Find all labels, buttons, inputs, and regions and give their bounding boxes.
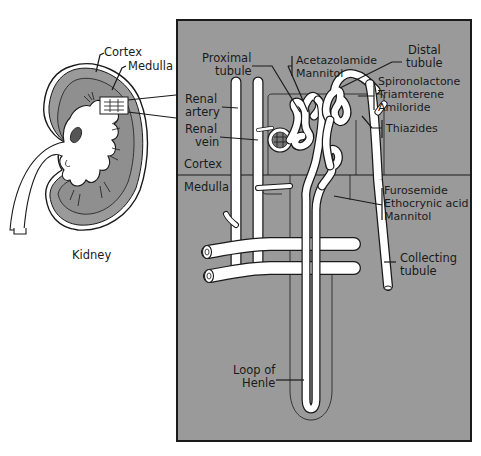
renal-vein-label-2: vein — [195, 135, 219, 149]
renal-vein-label-1: Renal — [185, 122, 217, 136]
drug-thiazides: Thiazides — [385, 122, 438, 135]
kidney-caption: Kidney — [72, 248, 111, 262]
medulla-region-label: Medulla — [184, 180, 229, 194]
kidney-cortex-label: Cortex — [104, 45, 142, 59]
magnify-box — [100, 97, 128, 114]
renal-artery-label-1: Renal — [185, 92, 217, 106]
proximal-tubule-label-2: tubule — [215, 64, 252, 78]
collecting-tubule-label-2: tubule — [400, 264, 437, 278]
kidney-inset: Cortex Medulla Kidney — [10, 45, 176, 262]
drug-spironolactone: Spironolactone — [378, 75, 461, 88]
drug-amiloride: Amiloride — [378, 101, 431, 114]
renal-artery-label-2: artery — [185, 105, 220, 119]
drug-mannitol-loop: Mannitol — [384, 210, 431, 223]
drug-triamterene: Triamterene — [377, 88, 444, 101]
cortex-region-label: Cortex — [184, 157, 222, 171]
drug-ethocrynic-acid: Ethocrynic acid — [384, 197, 468, 210]
loop-of-henle-label-1: Loop of — [233, 363, 276, 377]
ureter — [14, 228, 26, 234]
proximal-tubule-label-1: Proximal — [202, 51, 251, 65]
distal-tubule-label-1: Distal — [408, 43, 441, 57]
distal-tubule-label-2: tubule — [406, 56, 443, 70]
nephron-diuretic-diagram: Cortex Medulla Kidney Cortex Medulla — [0, 0, 481, 456]
drug-furosemide: Furosemide — [384, 184, 448, 197]
loop-of-henle-label-2: Henle — [242, 376, 275, 390]
drug-mannitol-proximal: Mannitol — [296, 67, 343, 80]
nephron-panel: Cortex Medulla — [177, 20, 471, 441]
collecting-tubule-label-1: Collecting — [400, 251, 457, 265]
drug-acetazolamide: Acetazolamide — [296, 54, 377, 67]
kidney-medulla-label: Medulla — [128, 59, 173, 73]
